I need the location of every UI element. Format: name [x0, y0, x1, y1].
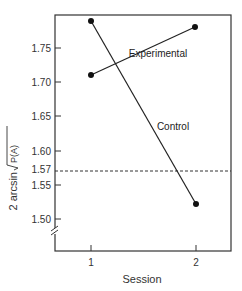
- y-tick-label: 1.55: [32, 180, 52, 191]
- x-axis-label: Session: [122, 273, 161, 285]
- x-tick-label: 2: [193, 257, 199, 268]
- y-axis-label: 2 arcsin P(A): [7, 126, 19, 211]
- y-tick-label: 1.50: [32, 214, 52, 225]
- control-series-label: Control: [157, 121, 189, 132]
- chart: 1.75 1.70 1.65 1.60 1.57 1.55 1.50 1 2 S…: [0, 0, 242, 291]
- y-ticks: [55, 48, 61, 219]
- experimental-point-session-2: [192, 24, 198, 30]
- y-tick-label: 1.65: [32, 111, 52, 122]
- x-tick-label: 1: [88, 257, 94, 268]
- y-tick-label: 1.60: [32, 146, 52, 157]
- experimental-series-label: Experimental: [129, 48, 187, 59]
- y-axis-label-radicand: P(A): [9, 145, 19, 163]
- y-tick-label: 1.75: [32, 43, 52, 54]
- y-axis-label-prefix: 2 arcsin: [7, 172, 19, 211]
- y-tick-label: 1.70: [32, 77, 52, 88]
- control-point-session-1: [88, 18, 94, 24]
- x-ticks: [91, 245, 196, 251]
- y-tick-label: 1.57: [32, 164, 52, 175]
- experimental-point-session-1: [88, 72, 94, 78]
- control-point-session-2: [193, 201, 199, 207]
